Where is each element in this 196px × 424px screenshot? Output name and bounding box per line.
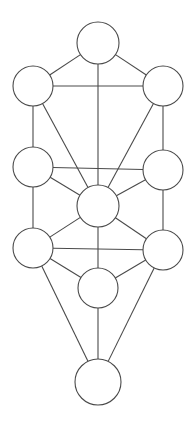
node-upper-left[interactable] (13, 66, 53, 106)
edge-n6-n7 (50, 217, 81, 237)
node-top-center[interactable] (77, 22, 119, 64)
edge-n7-n9 (50, 258, 81, 277)
node-center[interactable] (77, 185, 119, 227)
node-lower-right[interactable] (143, 230, 183, 270)
node-middle-left[interactable] (13, 147, 53, 187)
edge-n1-n2 (50, 55, 81, 75)
node-bottom-center[interactable] (75, 359, 121, 405)
node-lower-center[interactable] (78, 268, 118, 308)
tree-of-life-diagram (0, 0, 196, 424)
node-middle-right[interactable] (143, 150, 183, 190)
diagram-canvas (0, 0, 196, 424)
edge-n6-n8 (115, 218, 146, 239)
node-lower-left[interactable] (13, 228, 53, 268)
edge-n1-n3 (116, 55, 147, 75)
edge-n5-n6 (116, 180, 145, 196)
edge-n7-n8 (53, 248, 143, 249)
edge-n4-n6 (50, 177, 80, 195)
node-upper-right[interactable] (143, 66, 183, 106)
edge-n8-n9 (115, 260, 145, 278)
